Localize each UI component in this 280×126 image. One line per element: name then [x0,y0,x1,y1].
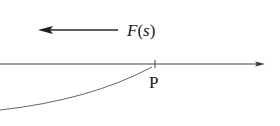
diagram-canvas: F(s) P [0,0,280,126]
force-arrow [38,26,118,34]
point-p-label: P [149,73,158,92]
horizontal-axis [0,62,265,67]
trajectory-curve [0,67,152,110]
force-label: F(s) [126,21,155,40]
